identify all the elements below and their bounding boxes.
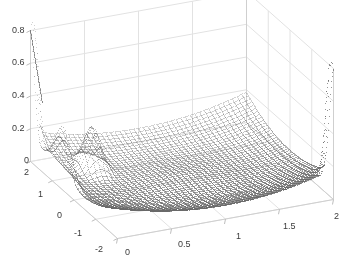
z-tick-label-1: 0.6	[12, 58, 25, 67]
z-tick-label-2: 0.4	[12, 91, 25, 100]
x-tick-label-1: 0.5	[178, 240, 191, 249]
surface-plot-canvas	[0, 0, 355, 261]
x-tick-label-2: 1	[236, 232, 241, 241]
y-tick-label-4: -2	[95, 245, 103, 254]
x-tick-label-3: 1.5	[283, 222, 296, 231]
z-tick-label-3: 0.2	[12, 124, 25, 133]
z-tick-label-0: 0.8	[12, 26, 25, 35]
y-tick-label-1: 1	[38, 190, 43, 199]
z-tick-label-4: 0	[24, 156, 29, 165]
y-tick-label-0: 2	[24, 168, 29, 177]
x-tick-label-0: 0	[125, 248, 130, 257]
figure-3d-surface-plot: 0.80.60.40.20 210-1-2 00.511.52	[0, 0, 355, 261]
y-tick-label-2: 0	[57, 211, 62, 220]
x-tick-label-4: 2	[334, 212, 339, 221]
y-tick-label-3: -1	[74, 229, 82, 238]
